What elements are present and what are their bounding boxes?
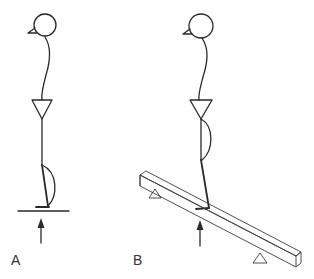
pelvis-triangle-icon [32,100,52,119]
spine-line [199,38,207,100]
diagram-canvas [0,0,314,279]
beam-end-cap [296,252,301,267]
beam-front-face [140,175,296,267]
calf-curve [42,165,55,206]
foot-line [196,208,209,209]
force-arrow-icon [38,218,45,228]
calf-curve [201,119,211,160]
panel-b-figure [140,14,301,267]
beam-top-face [140,171,301,256]
panel-a-figure [18,14,69,243]
panel-label-b: B [133,253,142,267]
right-fulcrum-icon [253,253,267,263]
head-icon [189,14,213,38]
shin-line [42,165,48,206]
panel-label-a: A [11,253,20,267]
force-arrow-icon [197,220,204,230]
spine-line [42,37,50,100]
pelvis-triangle-icon [190,100,212,119]
